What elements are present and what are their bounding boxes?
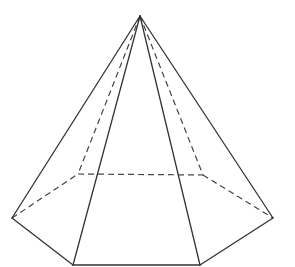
hidden-edge-apex-back-left [78,16,140,174]
visible-edge-apex-right [140,16,273,218]
hidden-edge-back-right-right [203,175,273,218]
visible-edge-apex-front-right [140,16,200,265]
hidden-edge-apex-back-right [140,16,203,175]
visible-edge-front-right-right [200,218,273,265]
visible-edge-apex-front-left [73,16,140,265]
visible-edge-apex-left [12,16,140,218]
visible-edge-left-front-left [12,218,73,265]
hidden-edges [12,16,273,218]
hidden-edge-left-back-left [12,174,78,218]
hexagonal-pyramid-diagram [0,0,295,267]
visible-edges [12,16,273,265]
